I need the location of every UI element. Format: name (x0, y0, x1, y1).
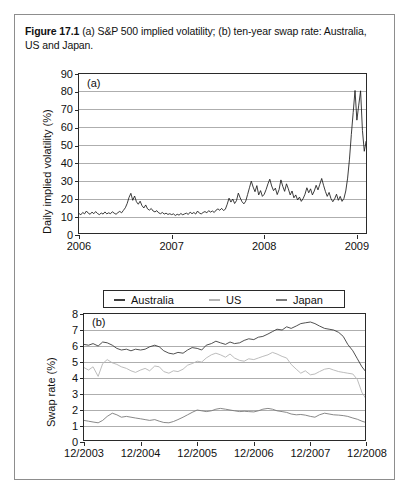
chart-b-svg (84, 314, 366, 441)
chart-b-panel-tag: (b) (92, 316, 105, 328)
series-line-us (84, 352, 366, 400)
chart-b-xtick-mark (141, 442, 142, 446)
chart-b-ytick-label: 1 (54, 421, 78, 432)
chart-b-ytick-label: 7 (54, 325, 78, 336)
chart-b-xtick-label: 12/2008 (335, 448, 399, 459)
chart-b-xtick-label: 12/2003 (52, 448, 116, 459)
chart-b-xtick-mark (254, 442, 255, 446)
chart-b-ytick-mark (80, 346, 84, 347)
chart-b-ytick-mark (80, 362, 84, 363)
chart-b-ytick-mark (80, 314, 84, 315)
chart-b-ytick-label: 4 (54, 373, 78, 384)
figure-border-box: Figure 17.1 (a) S&P 500 implied volatili… (14, 14, 395, 480)
chart-b-ytick-label: 0 (54, 437, 78, 448)
chart-b-xtick-mark (197, 442, 198, 446)
chart-b-ytick-mark (80, 330, 84, 331)
chart-b-ytick-label: 8 (54, 309, 78, 320)
chart-b-ytick-mark (80, 378, 84, 379)
chart-b-ytick-mark (80, 394, 84, 395)
chart-b-ytick-label: 2 (54, 405, 78, 416)
chart-b-ytick-label: 3 (54, 389, 78, 400)
figure-root: Figure 17.1 (a) S&P 500 implied volatili… (0, 0, 409, 493)
chart-b-xtick-label: 12/2005 (165, 448, 229, 459)
chart-b-xtick-label: 12/2004 (109, 448, 173, 459)
chart-b-ytick-mark (80, 426, 84, 427)
chart-panel-b: Swap rate (%) (b) 012345678 12/200312/20… (15, 15, 396, 481)
chart-b-plot-area: (b) (83, 313, 366, 441)
chart-b-xtick-mark (366, 442, 367, 446)
chart-b-xtick-mark (310, 442, 311, 446)
series-line-japan (84, 408, 366, 422)
chart-b-xtick-mark (84, 442, 85, 446)
chart-b-xtick-label: 12/2006 (222, 448, 286, 459)
chart-b-ytick-mark (80, 410, 84, 411)
chart-b-ytick-label: 6 (54, 341, 78, 352)
chart-b-ytick-label: 5 (54, 357, 78, 368)
chart-b-xtick-label: 12/2007 (278, 448, 342, 459)
